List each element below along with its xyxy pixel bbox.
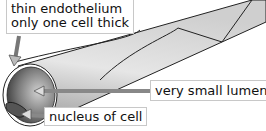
label-endothelium-line1: thin endothelium [11,2,129,16]
label-endothelium: thin endothelium only one cell thick [6,0,134,34]
label-lumen: very small lumen [150,80,266,101]
label-nucleus: nucleus of cell [44,107,147,126]
label-endothelium-line2: only one cell thick [11,16,129,30]
arrow-endothelium [9,36,21,66]
